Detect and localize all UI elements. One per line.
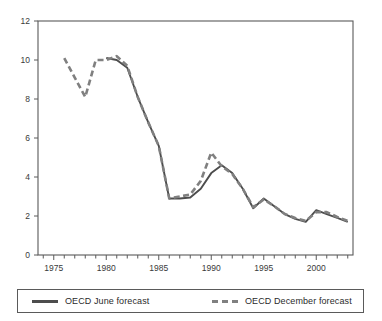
x-axis-tick-label: 1980 [97, 263, 116, 273]
legend-swatch-solid-line-icon [32, 300, 58, 303]
x-axis-tick-label: 1995 [254, 263, 273, 273]
series-line-december-forecast [64, 56, 348, 221]
x-axis-tick-label: 1990 [202, 263, 221, 273]
series-line-june-forecast [106, 58, 348, 222]
line-chart-svg: 024681012197519801985199019952000 [0, 0, 382, 280]
y-axis-tick-label: 10 [21, 55, 31, 65]
legend-swatch-dashed-line-icon [212, 300, 238, 303]
legend-label-june: OECD June forecast [65, 296, 149, 306]
chart-figure: 024681012197519801985199019952000 OECD J… [0, 0, 382, 321]
plot-frame [38, 21, 353, 255]
x-axis-tick-label: 1985 [149, 263, 168, 273]
y-axis-tick-label: 6 [25, 133, 30, 143]
legend-item-june: OECD June forecast [32, 296, 149, 306]
x-axis-tick-label: 1975 [44, 263, 63, 273]
chart-legend: OECD June forecast OECD December forecas… [17, 289, 364, 313]
plot-area: 024681012197519801985199019952000 [0, 0, 382, 280]
legend-item-december: OECD December forecast [212, 296, 352, 306]
x-axis-tick-label: 2000 [307, 263, 326, 273]
legend-label-december: OECD December forecast [245, 296, 352, 306]
y-axis-tick-label: 0 [25, 250, 30, 260]
y-axis-tick-label: 12 [21, 16, 31, 26]
y-axis-tick-label: 4 [25, 172, 30, 182]
y-axis-tick-label: 2 [25, 211, 30, 221]
y-axis-tick-label: 8 [25, 94, 30, 104]
